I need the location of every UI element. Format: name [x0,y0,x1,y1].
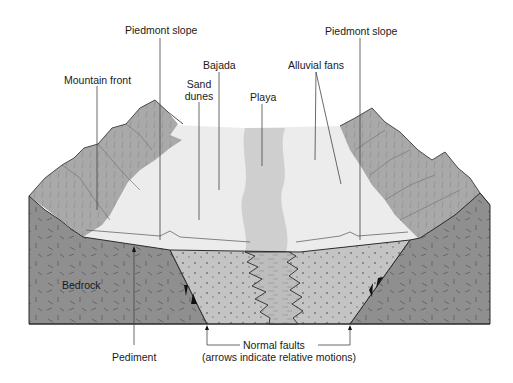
label-sand-line2: dunes [185,90,214,102]
label-playa: Playa [250,91,276,103]
playa-surface [241,128,287,252]
label-piedmont-slope-left: Piedmont slope [125,24,197,36]
label-alluvial-fans: Alluvial fans [288,59,344,71]
label-pediment: Pediment [112,351,156,363]
desert-landforms-diagram [0,0,513,383]
label-bedrock: Bedrock [62,279,101,291]
label-sand-dunes: Sand dunes [183,78,215,102]
label-mountain-front: Mountain front [64,74,131,86]
label-normal-faults: Normal faults [243,339,305,351]
label-piedmont-slope-right: Piedmont slope [325,25,397,37]
label-sand-line1: Sand [187,78,212,90]
label-normal-faults-note: (arrows indicate relative motions) [202,351,356,363]
label-bajada: Bajada [203,59,236,71]
